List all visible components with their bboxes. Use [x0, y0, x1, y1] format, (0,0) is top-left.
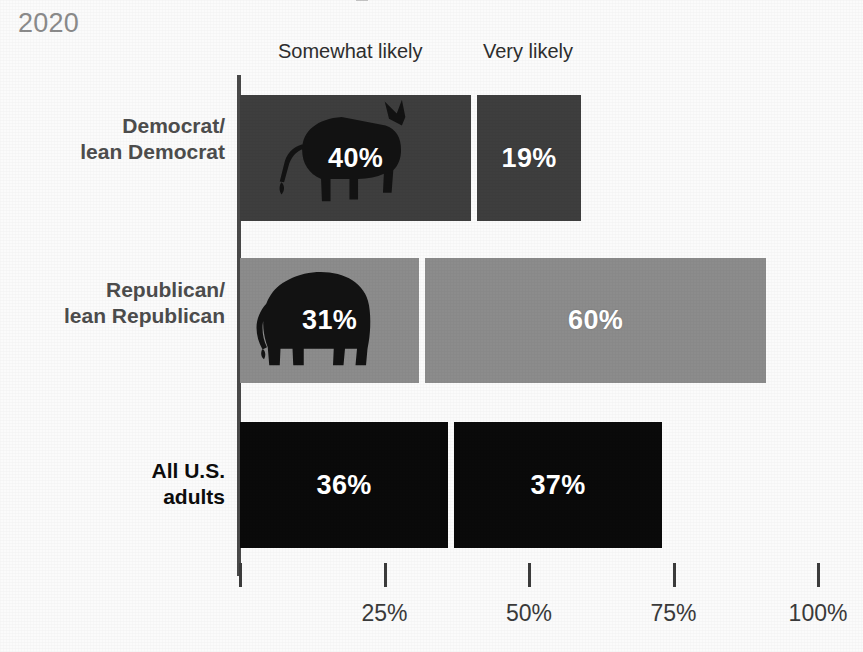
bar-segment-all-adults-somewhat-likely[interactable]: 36%: [240, 422, 448, 548]
plot-area: Democrat/ lean Democrat Republican/ lean…: [0, 0, 863, 652]
bar-value-republican-very-likely: 60%: [568, 305, 623, 336]
bar-value-democrat-very-likely: 19%: [502, 143, 557, 174]
category-label-republican: Republican/ lean Republican: [64, 277, 225, 328]
category-label-all-adults-line2: adults: [151, 484, 225, 510]
chart-page: 2020 Somewhat likely Very likely Democra…: [0, 0, 863, 652]
x-axis-tick-label-25: 25%: [361, 600, 407, 627]
x-axis-tick-25: [384, 563, 387, 587]
bar-segment-democrat-somewhat-likely[interactable]: 40%: [240, 95, 471, 221]
x-axis-tick-75: [673, 563, 676, 587]
bar-value-republican-somewhat-likely: 31%: [302, 305, 357, 336]
x-axis-tick-0: [239, 563, 242, 587]
bar-value-all-adults-very-likely: 37%: [531, 470, 586, 501]
bar-segment-all-adults-very-likely[interactable]: 37%: [454, 422, 662, 548]
category-label-democrat-line1: Democrat/: [80, 113, 225, 139]
x-axis-tick-label-50: 50%: [506, 600, 552, 627]
x-axis-tick-label-75: 75%: [650, 600, 696, 627]
category-label-all-adults: All U.S. adults: [151, 458, 225, 509]
x-axis-tick-50: [528, 563, 531, 587]
category-label-democrat: Democrat/ lean Democrat: [80, 113, 225, 164]
x-axis-tick-100: [817, 563, 820, 587]
bar-value-all-adults-somewhat-likely: 36%: [317, 470, 372, 501]
bar-segment-republican-very-likely[interactable]: 60%: [425, 258, 766, 383]
category-label-republican-line1: Republican/: [64, 277, 225, 303]
x-axis-tick-label-100: 100%: [789, 600, 848, 627]
category-label-all-adults-line1: All U.S.: [151, 458, 225, 484]
category-label-republican-line2: lean Republican: [64, 303, 225, 329]
bar-segment-democrat-very-likely[interactable]: 19%: [477, 95, 581, 221]
bar-segment-republican-somewhat-likely[interactable]: 31%: [240, 258, 419, 383]
category-label-democrat-line2: lean Democrat: [80, 139, 225, 165]
bar-value-democrat-somewhat-likely: 40%: [328, 143, 383, 174]
